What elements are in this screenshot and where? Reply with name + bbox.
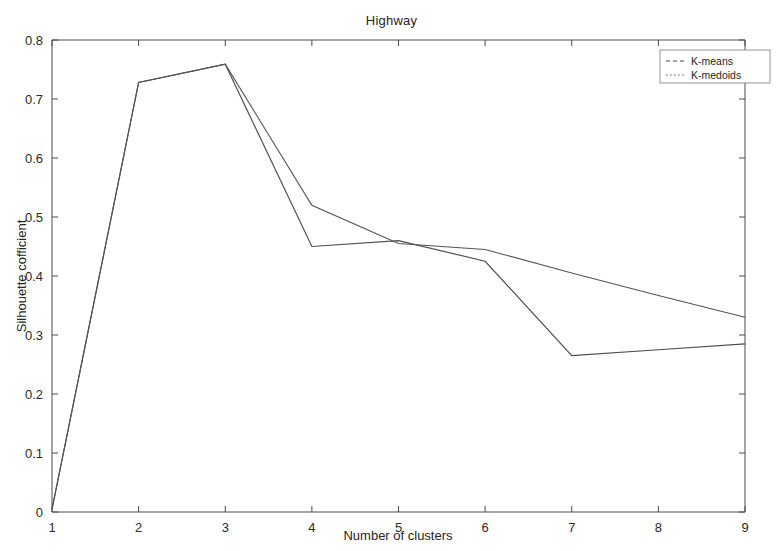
series-line-k-medoids: [52, 64, 745, 509]
y-tick-label: 0.7: [25, 92, 43, 107]
axes: [52, 40, 745, 512]
y-tick-label: 0.1: [25, 446, 43, 461]
x-tick-label: 8: [655, 520, 662, 535]
x-tick-label: 6: [482, 520, 489, 535]
x-tick-label: 4: [308, 520, 315, 535]
line-chart-plot: 123456789 00.10.20.30.40.50.60.70.8 Numb…: [0, 0, 783, 551]
axis-frame: [52, 40, 745, 512]
y-tick-label: 0.2: [25, 387, 43, 402]
y-axis-ticks: 00.10.20.30.40.50.60.70.8: [25, 33, 745, 520]
series-line-k-means: [52, 64, 745, 509]
y-tick-label: 0: [36, 505, 43, 520]
data-series-group: [52, 64, 745, 509]
y-tick-label: 0.8: [25, 33, 43, 48]
y-axis-title: Silhouette cofficient: [14, 219, 29, 332]
x-axis-ticks: 123456789: [48, 40, 748, 535]
legend-label-k-medoids: K-medoids: [691, 69, 741, 81]
x-tick-label: 2: [135, 520, 142, 535]
y-tick-label: 0.6: [25, 151, 43, 166]
figure-canvas: Highway 123456789 00.10.20.30.40.50.60.7…: [0, 0, 783, 551]
x-tick-label: 9: [741, 520, 748, 535]
x-tick-label: 3: [222, 520, 229, 535]
legend-label-k-means: K-means: [691, 55, 733, 67]
x-tick-label: 1: [48, 520, 55, 535]
x-axis-title: Number of clusters: [343, 528, 453, 543]
legend[interactable]: K-meansK-medoids: [660, 50, 770, 83]
x-tick-label: 7: [568, 520, 575, 535]
